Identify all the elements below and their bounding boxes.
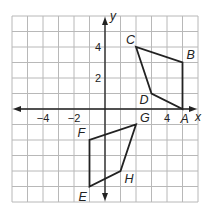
y-tick-label: 4	[95, 41, 101, 53]
coordinate-plane: xy −4−2442 ABCDEFGH	[0, 0, 207, 214]
x-tick-label: −4	[37, 112, 50, 124]
tick-labels: −4−2442	[37, 41, 170, 124]
vertex-label-H: H	[125, 172, 135, 186]
x-axis-left-arrow-icon	[13, 106, 21, 112]
y-axis-up-arrow-icon	[102, 17, 108, 25]
vertex-label-C: C	[126, 33, 136, 47]
vertex-label-B: B	[187, 48, 195, 62]
y-axis-label: y	[109, 9, 117, 23]
y-tick-label: 2	[95, 72, 101, 84]
vertex-label-D: D	[140, 93, 149, 107]
vertex-label-F: F	[78, 126, 87, 140]
vertex-label-E: E	[79, 190, 88, 204]
x-axis-label: x	[194, 110, 202, 124]
y-axis-down-arrow-icon	[102, 193, 108, 201]
coordinate-plane-svg: xy −4−2442 ABCDEFGH	[0, 0, 207, 214]
x-tick-label: −2	[68, 112, 81, 124]
vertex-label-A: A	[180, 112, 189, 126]
x-tick-label: 4	[164, 112, 170, 124]
vertex-label-G: G	[140, 111, 150, 125]
